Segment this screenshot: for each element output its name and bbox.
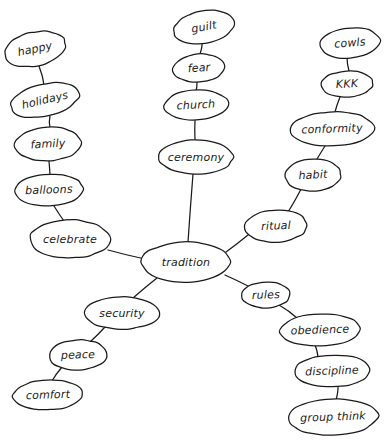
- node-label-fear: fear: [187, 61, 212, 76]
- node-label-family: family: [30, 137, 66, 152]
- node-label-balloons: balloons: [25, 183, 73, 198]
- edge-family-to-balloons: [49, 161, 50, 175]
- concept-map-canvas: happyholidaysfamilyballoonscelebrateguil…: [0, 0, 387, 440]
- node-ceremony[interactable]: ceremony: [159, 140, 234, 174]
- node-label-groupthink: group think: [300, 409, 366, 424]
- node-label-security: security: [99, 307, 145, 320]
- node-peace[interactable]: peace: [49, 339, 107, 371]
- node-habit[interactable]: habit: [284, 158, 341, 193]
- node-label-celebrate: celebrate: [43, 233, 97, 246]
- node-kkk[interactable]: KKK: [320, 70, 373, 99]
- node-ritual[interactable]: ritual: [244, 209, 308, 243]
- edge-kkk-to-conformity: [335, 97, 340, 112]
- node-label-church: church: [176, 97, 215, 112]
- node-conformity[interactable]: conformity: [290, 110, 376, 147]
- node-label-discipline: discipline: [305, 364, 359, 379]
- node-label-rules: rules: [252, 288, 281, 302]
- node-holidays[interactable]: holidays: [8, 76, 83, 123]
- node-label-tradition: tradition: [162, 256, 211, 269]
- edge-tradition-to-rules: [225, 275, 250, 287]
- node-label-ritual: ritual: [261, 219, 291, 233]
- node-family[interactable]: family: [13, 125, 82, 162]
- edge-cowls-to-kkk: [347, 58, 349, 71]
- edge-balloons-to-celebrate: [54, 206, 64, 221]
- node-obedience[interactable]: obedience: [279, 313, 361, 348]
- edge-guilt-to-fear: [200, 43, 202, 54]
- node-guilt[interactable]: guilt: [171, 6, 237, 49]
- node-tradition[interactable]: tradition: [141, 242, 231, 283]
- node-label-obedience: obedience: [290, 322, 349, 337]
- node-church[interactable]: church: [163, 88, 230, 122]
- node-security[interactable]: security: [84, 297, 159, 330]
- node-label-ceremony: ceremony: [168, 151, 225, 164]
- edge-tradition-to-security: [133, 278, 157, 298]
- node-rules[interactable]: rules: [241, 281, 290, 309]
- nodes-group: happyholidaysfamilyballoonscelebrateguil…: [2, 6, 382, 437]
- node-happy[interactable]: happy: [2, 26, 69, 73]
- concept-map-svg: happyholidaysfamilyballoonscelebrateguil…: [0, 0, 387, 440]
- node-celebrate[interactable]: celebrate: [30, 220, 111, 258]
- node-groupthink[interactable]: group think: [288, 397, 380, 436]
- edge-conformity-to-habit: [317, 146, 325, 159]
- edge-celebrate-to-tradition: [108, 250, 145, 259]
- node-label-kkk: KKK: [336, 77, 359, 91]
- node-comfort[interactable]: comfort: [12, 379, 83, 411]
- node-discipline[interactable]: discipline: [294, 354, 370, 388]
- edge-security-to-peace: [90, 327, 105, 342]
- edge-ritual-to-tradition: [226, 235, 248, 252]
- node-label-habit: habit: [298, 168, 328, 183]
- node-label-comfort: comfort: [26, 388, 71, 403]
- edge-habit-to-ritual: [288, 189, 301, 212]
- node-balloons[interactable]: balloons: [14, 173, 84, 207]
- node-fear[interactable]: fear: [171, 52, 225, 84]
- edge-rules-to-obedience: [279, 305, 297, 318]
- edge-discipline-to-groupthink: [336, 386, 338, 400]
- node-label-conformity: conformity: [301, 121, 363, 136]
- edge-obedience-to-discipline: [315, 345, 318, 357]
- edge-peace-to-comfort: [52, 367, 62, 381]
- node-label-cowls: cowls: [334, 35, 367, 51]
- node-cowls[interactable]: cowls: [319, 25, 382, 60]
- edge-happy-to-holidays: [39, 66, 44, 85]
- node-label-peace: peace: [60, 348, 96, 362]
- edge-holidays-to-family: [49, 116, 50, 128]
- edge-ceremony-to-tradition: [188, 174, 193, 242]
